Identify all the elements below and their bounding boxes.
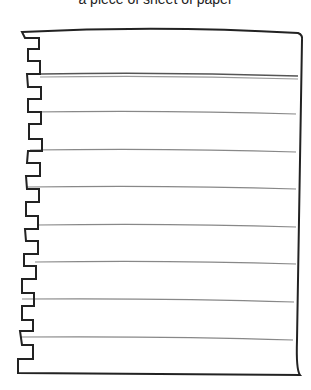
paper-outline xyxy=(18,29,302,375)
notebook-paper-illustration xyxy=(0,0,311,390)
ruled-lines xyxy=(20,73,298,340)
